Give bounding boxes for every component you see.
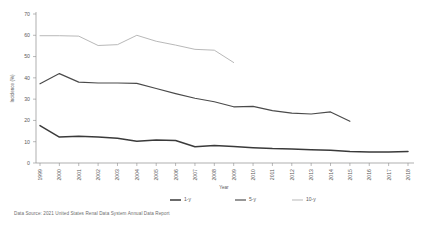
x-tick-label: 2003	[114, 169, 120, 181]
x-tick-label: 2006	[173, 169, 179, 181]
x-tick-label: 2009	[231, 169, 237, 181]
chart-legend: 1-y5-y10-y	[170, 196, 316, 202]
x-tick-label: 2010	[250, 169, 256, 181]
x-tick-label: 2018	[405, 169, 411, 181]
x-tick-label: 1999	[37, 169, 43, 181]
y-tick-label: 10	[24, 139, 30, 145]
line-chart-canvas: 010203040506070 199920002001200220032004…	[0, 0, 444, 225]
x-tick-label: 2000	[56, 169, 62, 181]
y-axis-tick-group: 010203040506070	[24, 11, 36, 166]
y-tick-label: 70	[24, 11, 30, 17]
source-note: Data Source: 2021 United States Renal Da…	[14, 211, 170, 216]
y-tick-label: 50	[24, 53, 30, 59]
x-tick-label: 2005	[153, 169, 159, 181]
legend-label-10-y: 10-y	[306, 196, 316, 202]
x-tick-label: 2016	[366, 169, 372, 181]
x-tick-label: 2017	[386, 169, 392, 181]
legend-label-1-y: 1-y	[184, 196, 191, 202]
x-tick-label: 2004	[134, 169, 140, 181]
y-tick-label: 60	[24, 32, 30, 38]
x-tick-label: 2007	[192, 169, 198, 181]
x-tick-label: 2001	[76, 169, 82, 181]
y-tick-label: 40	[24, 75, 30, 81]
data-series-group	[40, 35, 408, 152]
x-tick-label: 2014	[328, 169, 334, 181]
x-axis-title: Year	[219, 185, 229, 190]
x-tick-label: 2011	[269, 169, 275, 180]
y-tick-label: 30	[24, 96, 30, 102]
series-line-5-y	[40, 74, 350, 122]
y-tick-label: 0	[27, 160, 30, 166]
series-line-10-y	[40, 35, 234, 62]
y-tick-label: 20	[24, 117, 30, 123]
x-tick-label: 2012	[289, 169, 295, 181]
legend-label-5-y: 5-y	[249, 196, 256, 202]
x-axis-tick-group: 1999200020012002200320042005200620072008…	[37, 163, 411, 181]
y-axis-title: Incidence (%)	[10, 74, 15, 103]
x-tick-label: 2002	[95, 169, 101, 181]
chart-figure: 010203040506070 199920002001200220032004…	[0, 0, 444, 225]
x-tick-label: 2008	[211, 169, 217, 181]
x-tick-label: 2015	[347, 169, 353, 181]
series-line-1-y	[40, 126, 408, 152]
x-tick-label: 2013	[308, 169, 314, 181]
